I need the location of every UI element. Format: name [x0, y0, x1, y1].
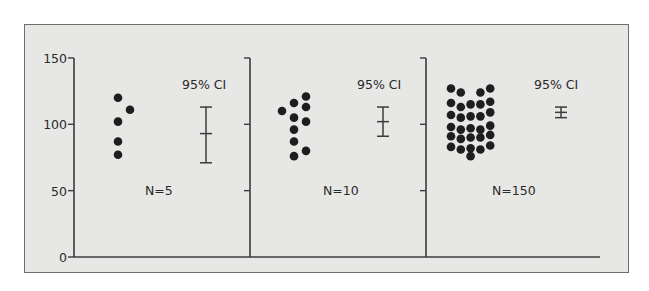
dot-plot-chart: 05010015095% CIN=595% CIN=1095% CIN=150: [0, 0, 649, 291]
data-point: [466, 152, 475, 161]
data-point: [466, 144, 475, 153]
sample-size-label: N=5: [145, 183, 173, 198]
data-point: [302, 147, 311, 156]
data-point: [476, 133, 485, 142]
sample-size-label: N=150: [492, 183, 536, 198]
sample-size-label: N=10: [323, 183, 359, 198]
data-point: [457, 135, 466, 144]
data-point: [447, 132, 456, 141]
data-point: [447, 123, 456, 132]
data-point: [302, 92, 311, 101]
data-point: [302, 117, 311, 126]
data-point: [466, 100, 475, 109]
data-point: [457, 103, 466, 112]
data-point: [486, 131, 495, 140]
data-point: [476, 145, 485, 154]
data-point: [278, 107, 287, 116]
data-point: [114, 117, 123, 126]
data-point: [476, 88, 485, 97]
data-point: [486, 108, 495, 117]
data-point: [302, 103, 311, 112]
data-point: [466, 112, 475, 121]
data-point: [476, 100, 485, 109]
data-point: [466, 124, 475, 133]
ci-label: 95% CI: [182, 77, 226, 92]
data-point: [114, 151, 123, 160]
y-tick-label-150: 150: [43, 51, 67, 66]
data-point: [457, 125, 466, 134]
data-point: [457, 145, 466, 154]
y-tick-label-0: 0: [59, 250, 67, 265]
data-point: [486, 121, 495, 130]
data-point: [290, 137, 299, 146]
data-point: [486, 84, 495, 93]
data-point: [457, 88, 466, 97]
data-point: [447, 84, 456, 93]
y-tick-label-50: 50: [51, 184, 67, 199]
data-point: [114, 93, 123, 102]
data-point: [114, 137, 123, 146]
data-point: [486, 97, 495, 106]
data-point: [290, 125, 299, 134]
data-point: [447, 111, 456, 120]
data-point: [447, 99, 456, 108]
data-point: [476, 125, 485, 134]
data-point: [476, 112, 485, 121]
data-point: [126, 105, 135, 114]
data-point: [290, 99, 299, 108]
data-point: [486, 141, 495, 150]
data-point: [290, 113, 299, 122]
data-point: [466, 133, 475, 142]
data-point: [447, 143, 456, 152]
ci-label: 95% CI: [357, 77, 401, 92]
y-tick-label-100: 100: [43, 117, 67, 132]
data-point: [290, 152, 299, 161]
data-point: [457, 113, 466, 122]
ci-label: 95% CI: [534, 77, 578, 92]
